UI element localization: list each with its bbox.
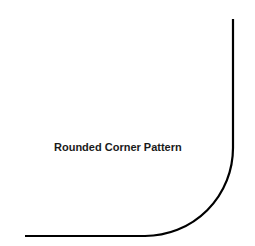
rounded-corner-path [25,19,233,236]
diagram-canvas: Rounded Corner Pattern [0,0,255,246]
pattern-label: Rounded Corner Pattern [54,140,190,154]
rounded-corner-shape [0,0,255,246]
